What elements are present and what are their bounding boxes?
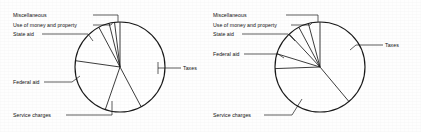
- right-label-miscellaneous: Miscellaneous: [213, 12, 247, 18]
- left-label-use-of-money-and-property: Use of money and property: [13, 22, 77, 28]
- right-pie-chart: Miscellaneous Use of money and property …: [213, 12, 399, 118]
- right-label-taxes: Taxes: [385, 42, 399, 48]
- left-pie-chart: Miscellaneous Use of money and property …: [13, 12, 197, 118]
- right-label-service-charges: Service charges: [213, 112, 251, 118]
- left-leader-miscellaneous: [93, 15, 118, 22]
- left-label-miscellaneous: Miscellaneous: [13, 12, 47, 18]
- right-label-federal-aid: Federal aid: [213, 51, 240, 57]
- right-label-state-aid: State aid: [213, 31, 234, 37]
- right-label-use-of-money-and-property: Use of money and property: [213, 22, 277, 28]
- figure-canvas: Miscellaneous Use of money and property …: [0, 0, 421, 132]
- left-leader-federal-aid: [44, 76, 80, 82]
- pie-charts-svg: Miscellaneous Use of money and property …: [0, 0, 421, 132]
- left-label-state-aid: State aid: [13, 31, 34, 37]
- left-label-taxes: Taxes: [183, 65, 197, 71]
- left-label-federal-aid: Federal aid: [13, 79, 40, 85]
- left-label-service-charges: Service charges: [13, 112, 51, 118]
- right-leader-miscellaneous: [286, 15, 318, 22]
